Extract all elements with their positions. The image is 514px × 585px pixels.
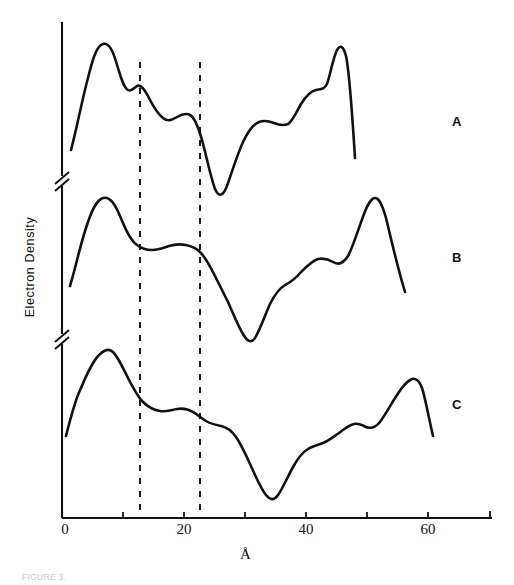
trace-label-c: C: [452, 397, 462, 412]
figure-caption: FIGURE 3.: [22, 572, 66, 582]
density-curve-c: [66, 350, 433, 499]
x-tick-label-20: 20: [177, 521, 192, 538]
x-axis: [62, 510, 492, 518]
x-tick-label-60: 60: [421, 521, 436, 538]
density-curve-b: [70, 198, 405, 342]
y-axis-title: Electron Density: [23, 187, 37, 347]
density-curve-a: [71, 44, 355, 195]
x-tick-label-40: 40: [299, 521, 314, 538]
y-axis: [55, 22, 69, 518]
figure-container: A B C Electron Density 0 20 40 60 Å FIGU…: [0, 0, 514, 585]
x-axis-title: Å: [240, 546, 251, 563]
x-tick-label-0: 0: [61, 521, 69, 538]
trace-label-a: A: [452, 114, 462, 129]
trace-label-b: B: [452, 250, 462, 265]
electron-density-plot: [0, 0, 514, 585]
